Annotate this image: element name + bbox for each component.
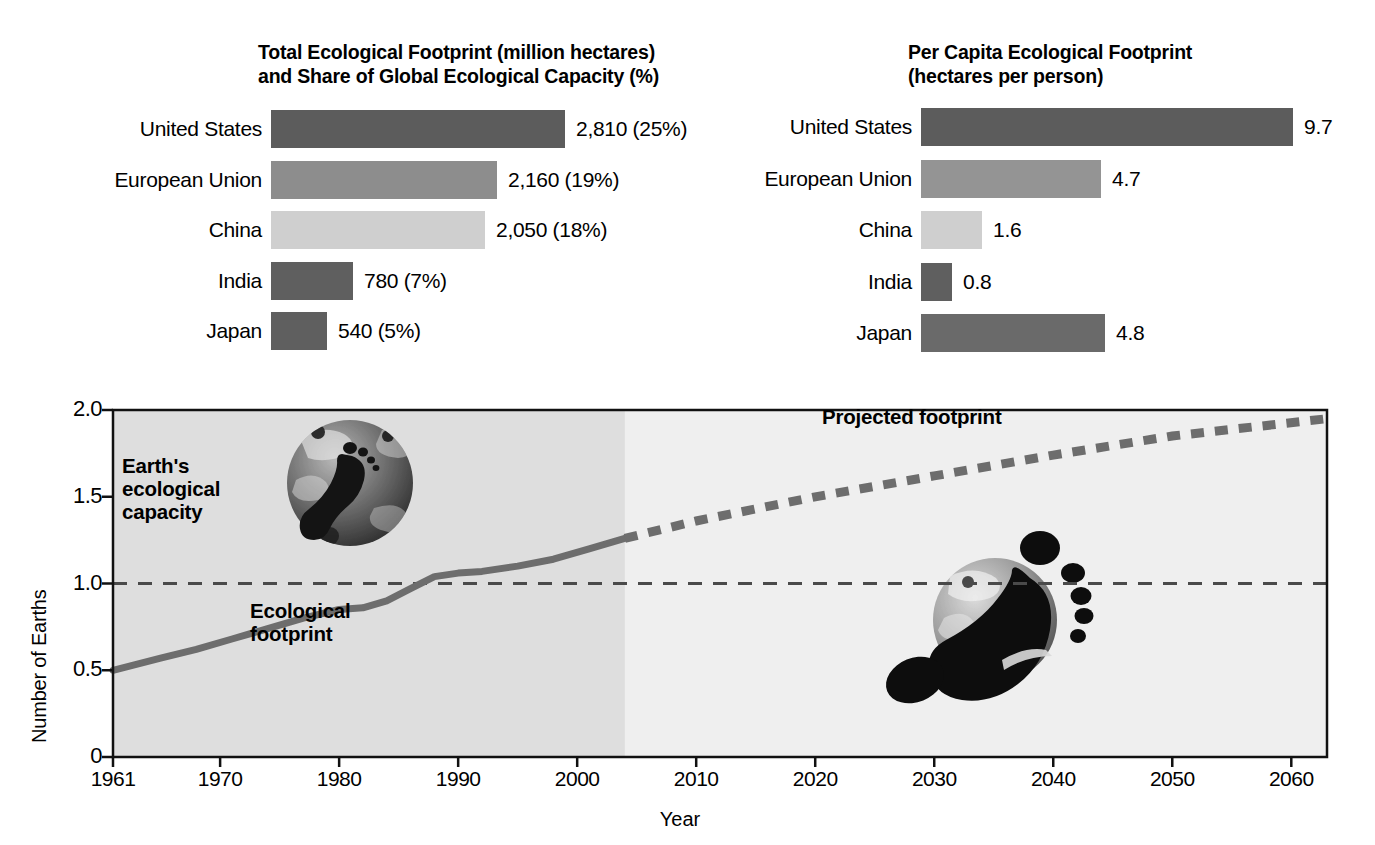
- x-tick-label: 1961: [73, 767, 153, 791]
- bar-value-label: 2,160 (19%): [497, 168, 619, 192]
- bar-category-label: India: [112, 269, 271, 293]
- bar-value-label: 1.6: [982, 218, 1021, 242]
- bar-rect: [921, 263, 952, 301]
- x-tick-label: 2050: [1132, 767, 1212, 791]
- bar-value-label: 540 (5%): [327, 319, 421, 343]
- bar-rect: [921, 108, 1293, 146]
- y-tick-label: 2.0: [42, 396, 102, 422]
- total-footprint-title: Total Ecological Footprint (million hect…: [258, 40, 678, 88]
- bar-value-label: 780 (7%): [353, 269, 447, 293]
- bar-row: European Union2,160 (19%): [112, 161, 619, 199]
- bar-category-label: India: [762, 270, 921, 294]
- bar-row: Japan540 (5%): [112, 312, 421, 350]
- bar-category-label: United States: [762, 115, 921, 139]
- bar-category-label: China: [762, 218, 921, 242]
- bar-row: India780 (7%): [112, 262, 447, 300]
- bar-row: China1.6: [762, 211, 1021, 249]
- x-tick-label: 2000: [537, 767, 617, 791]
- bar-value-label: 2,810 (25%): [565, 117, 687, 141]
- bar-rect: [271, 161, 497, 199]
- per-capita-panel: Per Capita Ecological Footprint (hectare…: [908, 40, 1338, 88]
- bar-rect: [271, 262, 353, 300]
- figure-root: Total Ecological Footprint (million hect…: [0, 0, 1375, 845]
- y-tickmarks: [102, 410, 113, 757]
- y-tick-label: 0: [42, 743, 102, 769]
- bar-category-label: United States: [112, 117, 271, 141]
- bar-row: Japan4.8: [762, 314, 1144, 352]
- annotation-ecological-capacity: Earth's ecological capacity: [122, 454, 220, 523]
- y-tick-label: 1.5: [42, 483, 102, 509]
- bar-row: India0.8: [762, 263, 991, 301]
- bar-rect: [921, 211, 982, 249]
- x-tick-label: 2030: [894, 767, 974, 791]
- bar-value-label: 4.7: [1101, 167, 1140, 191]
- x-tick-label: 2010: [656, 767, 736, 791]
- bar-row: European Union4.7: [762, 160, 1140, 198]
- annotation-projected-footprint: Projected footprint: [822, 405, 1002, 428]
- x-tick-label: 1970: [180, 767, 260, 791]
- bar-rect: [271, 211, 485, 249]
- x-axis-title: Year: [620, 808, 740, 831]
- bar-value-label: 9.7: [1293, 115, 1332, 139]
- bar-category-label: China: [112, 218, 271, 242]
- y-tick-label: 1.0: [42, 570, 102, 596]
- x-tick-label: 2040: [1013, 767, 1093, 791]
- number-of-earths-chart: Number of Earths 2.01.51.00.50 196119701…: [0, 368, 1375, 845]
- x-tick-label: 2060: [1251, 767, 1331, 791]
- bar-category-label: European Union: [112, 168, 271, 192]
- bar-category-label: European Union: [762, 167, 921, 191]
- bar-value-label: 2,050 (18%): [485, 218, 607, 242]
- x-tick-label: 2020: [775, 767, 855, 791]
- bar-value-label: 4.8: [1105, 321, 1144, 345]
- bar-rect: [921, 160, 1101, 198]
- y-tick-label: 0.5: [42, 656, 102, 682]
- bar-category-label: Japan: [762, 321, 921, 345]
- bar-rect: [921, 314, 1105, 352]
- annotation-ecological-footprint: Ecological footprint: [250, 599, 351, 645]
- x-tickmarks: [113, 757, 1291, 767]
- x-tick-label: 1980: [299, 767, 379, 791]
- bar-row: United States2,810 (25%): [112, 110, 687, 148]
- bar-category-label: Japan: [112, 319, 271, 343]
- bar-row: United States9.7: [762, 108, 1332, 146]
- total-footprint-panel: Total Ecological Footprint (million hect…: [258, 40, 678, 88]
- bar-value-label: 0.8: [952, 270, 991, 294]
- bar-rect: [271, 312, 327, 350]
- bar-rect: [271, 110, 565, 148]
- bar-row: China2,050 (18%): [112, 211, 607, 249]
- x-tick-label: 1990: [418, 767, 498, 791]
- per-capita-title: Per Capita Ecological Footprint (hectare…: [908, 40, 1338, 88]
